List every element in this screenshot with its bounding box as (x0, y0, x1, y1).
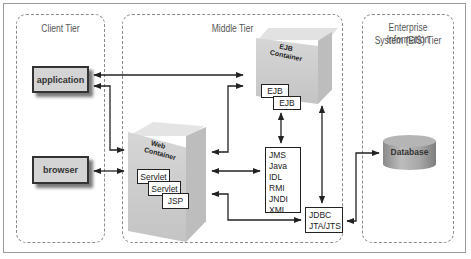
arrow-application-web (94, 86, 124, 150)
arrow-web-jdbc (212, 194, 301, 220)
connector-arrows (0, 0, 471, 259)
arrow-jdbc-database (347, 153, 379, 221)
arrow-web-ejb (212, 86, 243, 152)
